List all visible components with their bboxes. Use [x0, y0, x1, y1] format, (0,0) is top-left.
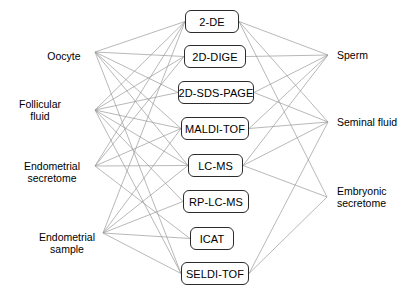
- technique-box-lc-ms[interactable]: LC-MS: [188, 154, 243, 177]
- edge-2d-dige-to-sperm: [246, 55, 328, 57]
- source-label-endometrial-sample: Endometrial sample: [39, 231, 95, 256]
- target-label-embryonic-secretome: Embryonic secretome: [337, 185, 387, 210]
- edge-oocyte-to-maldi-tof: [95, 52, 181, 129]
- edge-lc-ms-to-sperm: [243, 55, 328, 166]
- edge-2-de-to-sperm: [239, 22, 328, 56]
- edge-oocyte-to-2-de: [95, 22, 185, 53]
- edge-seldi-tof-to-seminal-fluid: [249, 122, 328, 274]
- edge-follicular-fluid-to-seldi-tof: [95, 110, 181, 274]
- edge-oocyte-to-seldi-tof: [95, 52, 181, 274]
- edge-seldi-tof-to-embryonic-secretome: [249, 197, 327, 274]
- edge-2-de-to-seminal-fluid: [239, 22, 328, 123]
- technique-box-rp-lc-ms[interactable]: RP-LC-MS: [183, 190, 249, 213]
- edge-lc-ms-to-embryonic-secretome: [243, 166, 327, 198]
- edge-oocyte-to-2d-dige: [95, 52, 184, 57]
- target-label-sperm: Sperm: [337, 49, 368, 62]
- technique-box-2d-sds-page[interactable]: 2D-SDS-PAGE: [178, 81, 254, 104]
- edge-follicular-fluid-to-rp-lc-ms: [95, 110, 183, 202]
- technique-box-seldi-tof[interactable]: SELDI-TOF: [181, 262, 249, 285]
- technique-box-maldi-tof[interactable]: MALDI-TOF: [181, 117, 249, 140]
- edge-follicular-fluid-to-2d-dige: [95, 57, 184, 111]
- edge-endometrial-secretome-to-2d-dige: [95, 57, 184, 167]
- edge-endometrial-sample-to-icat: [103, 233, 190, 239]
- target-label-seminal-fluid: Seminal fluid: [337, 116, 397, 129]
- edge-lc-ms-to-seminal-fluid: [243, 122, 328, 166]
- edge-maldi-tof-to-seminal-fluid: [249, 122, 328, 129]
- edge-endometrial-sample-to-seldi-tof: [103, 233, 181, 274]
- edge-2d-sds-page-to-seminal-fluid: [254, 93, 328, 123]
- edge-2-de-to-embryonic-secretome: [239, 22, 327, 198]
- technique-box-2-de[interactable]: 2-DE: [185, 10, 239, 33]
- technique-box-icat[interactable]: ICAT: [190, 227, 234, 250]
- source-label-oocyte: Oocyte: [47, 50, 80, 63]
- edge-endometrial-secretome-to-lc-ms: [95, 166, 188, 167]
- edge-follicular-fluid-to-2-de: [95, 22, 185, 111]
- edge-follicular-fluid-to-2d-sds-page: [95, 93, 178, 111]
- source-label-endometrial-secretome: Endometrial secretome: [24, 160, 80, 185]
- diagram-canvas: 2-DE2D-DIGE2D-SDS-PAGEMALDI-TOFLC-MSRP-L…: [0, 0, 402, 296]
- technique-box-2d-dige[interactable]: 2D-DIGE: [184, 45, 246, 68]
- source-label-follicular-fluid: Follicular fluid: [19, 98, 61, 123]
